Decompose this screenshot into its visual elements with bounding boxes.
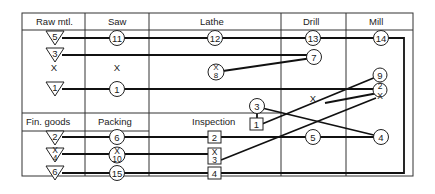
pack-node-10: X 10 <box>109 146 125 164</box>
svg-text:9: 9 <box>377 70 382 81</box>
svg-text:1: 1 <box>254 119 259 130</box>
svg-text:X: X <box>377 91 383 101</box>
drill-node-13: 13 <box>306 31 321 46</box>
svg-text:10: 10 <box>112 154 122 164</box>
col-label-saw: Saw <box>108 16 127 27</box>
svg-text:4: 4 <box>53 153 58 163</box>
flow-path-3-4 <box>262 108 382 137</box>
insp-node-4: 4 <box>208 167 221 179</box>
saw-node-1: 1 <box>110 82 125 97</box>
flow-diagram: Raw mtl. Saw Lathe Drill Mill Fin. goods… <box>0 0 435 194</box>
pack-node-15: 15 <box>110 166 125 181</box>
svg-text:3: 3 <box>212 155 217 165</box>
insp-node-2: 2 <box>208 131 221 143</box>
insp-node-3: X 3 <box>208 147 221 165</box>
col-label-mill: Mill <box>369 16 383 27</box>
svg-text:7: 7 <box>311 52 316 63</box>
svg-text:5: 5 <box>310 132 315 143</box>
mill-node-4: 4 <box>374 130 389 145</box>
lathe-node-3: 3 <box>250 99 265 114</box>
svg-text:6: 6 <box>114 132 119 143</box>
raw-node-x: X <box>51 62 58 73</box>
col-label-raw: Raw mtl. <box>36 16 73 27</box>
svg-text:11: 11 <box>112 33 122 44</box>
svg-text:5: 5 <box>52 31 57 42</box>
col-label-drill: Drill <box>303 16 319 27</box>
saw-node-11: 11 <box>110 31 125 46</box>
svg-text:8: 8 <box>214 71 219 80</box>
lathe-node-8: X 8 <box>208 63 224 81</box>
svg-text:2: 2 <box>52 131 57 142</box>
fin-node-4: X 4 <box>46 145 64 163</box>
mill-node-14: 14 <box>374 31 389 46</box>
svg-text:3: 3 <box>52 48 57 59</box>
pack-node-6: 6 <box>110 130 125 145</box>
saw-node-x: X <box>114 62 121 73</box>
svg-text:2: 2 <box>212 132 217 143</box>
svg-text:13: 13 <box>308 33 319 44</box>
drill-node-5: 5 <box>306 130 321 145</box>
raw-node-1: 1 <box>46 82 64 97</box>
col-label-inspection: Inspection <box>192 116 235 127</box>
flow-path-1-9 <box>262 77 376 124</box>
col-label-fin-goods: Fin. goods <box>26 116 71 127</box>
lathe-node-12: 12 <box>208 31 223 46</box>
mill-node-9: 9 <box>373 68 387 82</box>
svg-text:4: 4 <box>378 132 383 143</box>
col-label-packing: Packing <box>98 116 132 127</box>
svg-text:1: 1 <box>114 84 119 95</box>
svg-text:12: 12 <box>210 33 221 44</box>
svg-text:14: 14 <box>376 33 387 44</box>
insp-node-1: 1 <box>250 118 263 130</box>
col-label-lathe: Lathe <box>200 16 224 27</box>
fin-node-2: 2 <box>46 131 64 146</box>
svg-text:4: 4 <box>212 168 217 179</box>
svg-text:15: 15 <box>112 168 123 179</box>
raw-node-5: 5 <box>46 31 64 46</box>
svg-text:2: 2 <box>378 81 383 91</box>
svg-text:6: 6 <box>52 166 57 177</box>
svg-text:3: 3 <box>254 101 259 112</box>
drill-node-7: 7 <box>307 50 322 65</box>
drill-node-x: X <box>310 93 317 104</box>
fin-node-6: 6 <box>46 166 64 181</box>
raw-node-3: 3 <box>46 48 64 63</box>
flow-path-8-7 <box>216 57 319 72</box>
svg-text:1: 1 <box>52 82 57 93</box>
flow-path-3-x <box>221 98 376 160</box>
